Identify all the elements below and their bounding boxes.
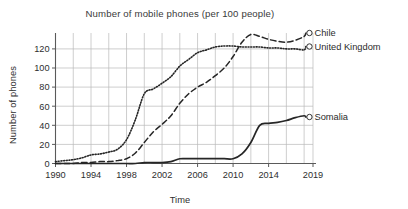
x-tick-label: 1998 [116,170,136,180]
x-tick-label: 2019 [303,170,323,180]
series-end-marker-chile [307,30,312,35]
x-tick-label: 1994 [81,170,101,180]
series-label-chile: Chile [314,28,335,38]
x-tick-label: 2014 [258,170,278,180]
y-tick-label: 80 [39,82,49,92]
series-label-united-kingdom: United Kingdom [314,42,380,52]
chart-title: Number of mobile phones (per 100 people) [86,8,275,19]
y-tick-label: 60 [39,102,49,112]
y-tick-label: 100 [34,63,49,73]
x-axis-title: Time [170,195,191,205]
horizontal-gridlines [56,49,314,144]
y-tick-label: 120 [34,44,49,54]
y-axis-tick-labels: 020406080100120 [34,44,49,169]
y-tick-label: 40 [39,121,49,131]
x-tick-label: 2010 [223,170,243,180]
y-tick-label: 0 [44,159,49,169]
chart-canvas: Number of mobile phones (per 100 people)… [0,0,408,209]
vertical-gridlines [73,33,313,164]
series-label-somalia: Somalia [314,112,348,122]
series-end-marker-somalia [307,114,312,119]
y-axis-title: Number of phones [8,66,18,144]
x-axis-tick-labels: 19901994199820022006201020142019 [45,170,323,180]
series-end-marker-united-kingdom [307,44,312,49]
x-tick-label: 1990 [45,170,65,180]
series-end-labels: ChileUnited KingdomSomalia [314,28,380,122]
x-tick-label: 2002 [152,170,172,180]
y-tick-label: 20 [39,140,49,150]
x-tick-label: 2006 [187,170,207,180]
mobile-phones-line-chart: Number of mobile phones (per 100 people)… [0,0,408,209]
